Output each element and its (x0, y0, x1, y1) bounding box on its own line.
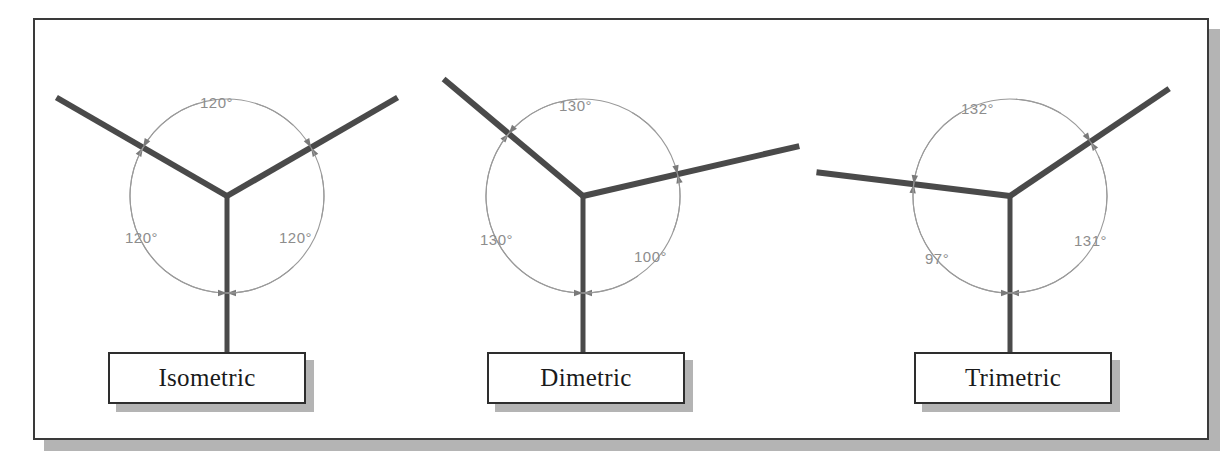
dimetric-label-box[interactable]: Dimetric (487, 352, 685, 404)
isometric-right-angle-arc-a (227, 267, 293, 293)
trimetric-top-angle-arc-a (1016, 99, 1090, 142)
trimetric-label-text: Trimetric (965, 364, 1061, 392)
dimetric-right-angle-text: 100° (634, 248, 667, 265)
trimetric-label-box[interactable]: Trimetric (914, 352, 1112, 404)
dimetric-left-angle-text: 130° (480, 231, 513, 248)
trimetric-right-angle-arc-a (1010, 265, 1079, 293)
trimetric-right-angle-text: 131° (1074, 232, 1107, 249)
isometric-left-angle-text: 120° (125, 229, 158, 246)
axis-diagram-dimetric (444, 79, 800, 352)
dimetric-top-angle-text: 130° (559, 97, 592, 114)
isometric-label-text: Isometric (158, 364, 255, 392)
trimetric-top-angle-arc-b (914, 112, 961, 184)
isometric-left-angle-arrowhead-start (143, 138, 150, 147)
isometric-right-angle-arrowhead-end (304, 138, 311, 147)
trimetric-left-angle-text: 97° (925, 250, 949, 267)
figure-canvas: 120°120°120°Isometric130°130°100°Dimetri… (0, 0, 1230, 463)
isometric-top-angle-text: 120° (200, 94, 233, 111)
isometric-top-angle-arc-a (255, 103, 311, 147)
isometric-right-angle-text: 120° (279, 229, 312, 246)
axis-diagram-trimetric (816, 89, 1169, 352)
trimetric-right-angle-arc-b (1090, 142, 1107, 215)
isometric-right-angle-arc-b (311, 148, 324, 218)
axis-diagram-isometric (56, 98, 397, 353)
isometric-top-angle-arc-b (143, 103, 199, 147)
trimetric-top-angle-text: 132° (961, 100, 994, 117)
isometric-left-axis (56, 98, 227, 197)
isometric-right-axis (227, 98, 398, 197)
trimetric-right-axis (1010, 89, 1169, 196)
isometric-left-angle-arc-b (130, 99, 293, 293)
isometric-label-box[interactable]: Isometric (108, 352, 306, 404)
dimetric-right-axis (583, 146, 799, 196)
dimetric-top-angle-arc-a (632, 112, 677, 174)
dimetric-label-text: Dimetric (540, 364, 631, 392)
